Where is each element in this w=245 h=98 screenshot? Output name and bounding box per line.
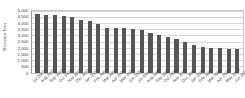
y-axis-title-label: Thousand Tons	[3, 23, 7, 52]
y-axis-tick: 500	[21, 65, 30, 69]
bar-slot	[181, 11, 190, 73]
y-axis-tick: 1,500	[18, 52, 31, 56]
bar	[53, 15, 57, 72]
bar	[44, 15, 48, 73]
x-axis-tick-slot: Oct 2004	[164, 74, 173, 98]
y-axis-tick: 0	[26, 71, 30, 75]
x-axis-tick-slot: Jul 2004	[138, 74, 147, 98]
x-axis-tick-slot: May 2004	[120, 74, 129, 98]
bar	[174, 39, 178, 72]
x-axis-tick-slot: Aug 2004	[146, 74, 155, 98]
bar-slot	[172, 11, 181, 73]
bar-slot	[146, 11, 155, 73]
bar	[88, 21, 92, 72]
bar-slot	[198, 11, 207, 73]
y-axis-tick-labels: 5,0004,5004,0003,5003,0002,5002,0001,500…	[10, 7, 30, 74]
bar	[79, 20, 83, 73]
x-axis-tick-slot: Feb 2005	[199, 74, 208, 98]
bar-slot	[137, 11, 146, 73]
x-axis-tick-slot: Mar 2004	[102, 74, 111, 98]
y-axis-tick: 3,500	[18, 27, 31, 31]
bar-slot	[224, 11, 233, 73]
y-axis-tick: 4,000	[18, 21, 31, 25]
x-axis-tick-slot: Jun 2005	[234, 74, 243, 98]
bar	[35, 14, 39, 72]
y-axis-tick: 3,000	[18, 34, 31, 38]
bar	[62, 16, 66, 72]
bar-chart: Thousand Tons 5,0004,5004,0003,5003,0002…	[0, 0, 245, 98]
x-axis-tick-labels: Jul 2003Aug 2003Sep 2003Oct 2003Nov 2003…	[31, 74, 244, 98]
bar-slot	[111, 11, 120, 73]
x-axis-tick-slot: Jan 2004	[85, 74, 94, 98]
bar-slot	[77, 11, 86, 73]
x-axis-tick-slot: Apr 2005	[217, 74, 226, 98]
plot-area	[31, 10, 244, 74]
bar-slot	[155, 11, 164, 73]
bar	[140, 30, 144, 72]
x-axis-tick-slot: Oct 2003	[59, 74, 68, 98]
x-axis-tick-slot: Jan 2005	[190, 74, 199, 98]
bar-slot	[233, 11, 242, 73]
bar	[148, 33, 152, 73]
x-axis-tick-slot: Sep 2004	[155, 74, 164, 98]
bar-slot	[94, 11, 103, 73]
bar	[131, 29, 135, 73]
y-axis-tick: 2,000	[18, 46, 31, 50]
bar-slot	[164, 11, 173, 73]
x-axis-tick-slot: May 2005	[225, 74, 234, 98]
x-axis-tick-slot: Feb 2004	[94, 74, 103, 98]
bar	[114, 28, 118, 72]
bar	[96, 24, 100, 73]
bar-slot	[190, 11, 199, 73]
bar-slot	[42, 11, 51, 73]
x-axis-tick-slot: Dec 2004	[181, 74, 190, 98]
bar-slot	[129, 11, 138, 73]
x-axis-tick-slot: Jul 2003	[32, 74, 41, 98]
bar-slot	[33, 11, 42, 73]
x-axis-tick-slot: Mar 2005	[208, 74, 217, 98]
bar	[122, 28, 126, 72]
x-axis-tick-slot: Nov 2004	[173, 74, 182, 98]
x-axis-tick-slot: Aug 2003	[41, 74, 50, 98]
bar-slot	[103, 11, 112, 73]
x-axis-tick-slot: Jun 2004	[129, 74, 138, 98]
bar	[70, 17, 74, 73]
bar-series	[32, 11, 243, 73]
x-axis-tick-slot: Nov 2003	[67, 74, 76, 98]
bar-slot	[216, 11, 225, 73]
x-axis-tick-slot: Sep 2003	[50, 74, 59, 98]
bar-slot	[51, 11, 60, 73]
y-axis-tick: 5,000	[18, 9, 31, 13]
x-axis-tick-slot: Dec 2003	[76, 74, 85, 98]
bar-slot	[207, 11, 216, 73]
bar-slot	[120, 11, 129, 73]
x-axis-tick-slot: Apr 2004	[111, 74, 120, 98]
bar-slot	[68, 11, 77, 73]
bar	[105, 28, 109, 73]
y-axis-tick: 2,500	[18, 40, 31, 44]
y-axis-tick: 1,000	[18, 59, 31, 63]
bar-slot	[85, 11, 94, 73]
bar-slot	[59, 11, 68, 73]
y-axis-tick: 4,500	[18, 15, 31, 19]
